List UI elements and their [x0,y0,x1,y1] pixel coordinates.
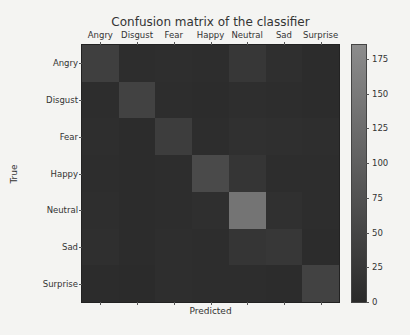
matrix-cell [82,229,119,266]
matrix-cell [229,45,266,82]
matrix-cell [155,155,192,192]
confusion-matrix [82,45,339,302]
matrix-cell [302,265,339,302]
matrix-cell [192,82,229,119]
matrix-cell [155,82,192,119]
matrix-cell [302,118,339,155]
matrix-cell [266,45,303,82]
matrix-cell [82,192,119,229]
matrix-cell [155,118,192,155]
x-tick-mark [321,42,322,45]
matrix-cell [266,118,303,155]
y-tick-mark [79,210,82,211]
matrix-cell [229,229,266,266]
colorbar-tick-label: 0 [372,297,377,307]
matrix-cell [192,155,229,192]
matrix-cell [155,229,192,266]
x-tick-mark-bottom [211,302,212,305]
y-tick-label: Angry [53,58,78,68]
matrix-cell [229,155,266,192]
y-tick-label: Neutral [47,205,78,215]
colorbar-tick-mark [366,163,369,164]
matrix-cell [229,265,266,302]
x-tick-mark [174,42,175,45]
matrix-cell [155,45,192,82]
y-tick-mark [79,284,82,285]
colorbar [352,45,366,302]
x-tick-mark-bottom [137,302,138,305]
x-tick-label: Happy [197,30,224,40]
x-tick-mark-bottom [247,302,248,305]
matrix-cell [119,192,156,229]
matrix-cell [119,118,156,155]
matrix-cell [119,229,156,266]
matrix-cell [82,155,119,192]
matrix-cell [82,118,119,155]
matrix-cell [302,45,339,82]
x-tick-label: Disgust [121,30,153,40]
matrix-cell [119,265,156,302]
x-axis-label: Predicted [82,306,339,316]
matrix-cell [302,155,339,192]
colorbar-tick-mark [366,267,369,268]
matrix-cell [82,265,119,302]
x-tick-label: Surprise [303,30,338,40]
y-tick-label: Surprise [43,279,78,289]
matrix-cell [266,265,303,302]
matrix-cell [119,155,156,192]
y-axis-label: True [9,164,19,183]
x-tick-mark-bottom [321,302,322,305]
matrix-cell [266,82,303,119]
matrix-cell [192,265,229,302]
y-tick-mark [79,100,82,101]
x-tick-mark [284,42,285,45]
matrix-cell [192,118,229,155]
x-tick-mark [211,42,212,45]
colorbar-tick-mark [366,233,369,234]
matrix-cell [192,45,229,82]
y-tick-mark [79,247,82,248]
matrix-cell [155,265,192,302]
matrix-cell [192,192,229,229]
colorbar-tick-label: 75 [372,193,383,203]
colorbar-tick-mark [366,94,369,95]
matrix-cell [302,192,339,229]
colorbar-tick-label: 175 [372,54,388,64]
matrix-cell [229,82,266,119]
y-tick-label: Happy [51,169,78,179]
matrix-cell [155,192,192,229]
matrix-cell [119,82,156,119]
colorbar-tick-mark [366,302,369,303]
matrix-cell [82,45,119,82]
matrix-cell [119,45,156,82]
matrix-cell [192,229,229,266]
x-tick-label: Fear [165,30,183,40]
x-tick-mark-bottom [100,302,101,305]
matrix-cell [266,229,303,266]
y-tick-mark [79,63,82,64]
matrix-cell [229,118,266,155]
colorbar-tick-mark [366,59,369,60]
colorbar-tick-label: 150 [372,89,388,99]
y-tick-mark [79,174,82,175]
colorbar-tick-mark [366,198,369,199]
colorbar-tick-mark [366,128,369,129]
chart-title: Confusion matrix of the classifier [82,15,339,29]
x-tick-label: Neutral [232,30,263,40]
x-tick-mark [100,42,101,45]
colorbar-tick-label: 25 [372,262,383,272]
colorbar-tick-label: 100 [372,158,388,168]
colorbar-tick-label: 50 [372,228,383,238]
x-tick-mark [137,42,138,45]
x-tick-label: Angry [88,30,113,40]
matrix-cell [82,82,119,119]
x-tick-label: Sad [276,30,292,40]
y-tick-label: Sad [62,242,78,252]
matrix-cell [266,192,303,229]
x-tick-mark [247,42,248,45]
x-tick-mark-bottom [284,302,285,305]
matrix-cell [302,82,339,119]
colorbar-tick-label: 125 [372,123,388,133]
y-tick-mark [79,137,82,138]
matrix-cell [302,229,339,266]
